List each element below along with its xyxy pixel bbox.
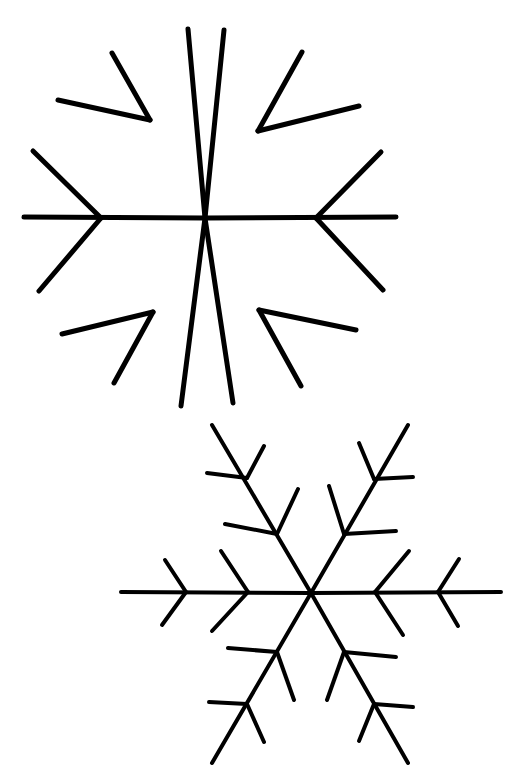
b-arm-se-b1-b	[327, 652, 344, 700]
b-arm-sw-b2-a	[209, 702, 247, 704]
snowflake-bottom-strokes	[121, 425, 501, 763]
b-arm-w-b2-up	[165, 560, 186, 592]
b-arm-ne-b1-a	[344, 531, 396, 534]
drawing-canvas	[0, 0, 528, 780]
b-arm-sw-b1-b	[277, 652, 294, 700]
b-arm-e-b1-up	[375, 551, 409, 592]
b-arm-se-b1-a	[344, 652, 396, 657]
b-arm-nw-b2-b	[247, 446, 264, 478]
b-arm-se-b2-b	[359, 704, 374, 741]
b-arm-w-b1-dn	[212, 592, 248, 631]
b-arm-e-b1-dn	[375, 592, 403, 635]
b-arm-ne-b2-b	[359, 443, 374, 479]
b-arm-ne-b1-b	[329, 486, 344, 534]
snowflake-bottom	[0, 0, 528, 780]
b-arm-w-b2-dn	[162, 592, 186, 625]
b-arm-sw-b1-a	[228, 648, 277, 652]
b-arm-se-b2-a	[374, 704, 413, 707]
b-arm-e-main	[311, 592, 501, 593]
b-arm-w-main	[121, 592, 311, 593]
b-arm-e-b2-up	[438, 559, 459, 592]
b-arm-ne-b2-a	[374, 477, 413, 479]
b-arm-e-b2-dn	[438, 592, 458, 626]
b-arm-nw-b1-b	[277, 489, 298, 534]
b-arm-w-b1-up	[221, 551, 248, 592]
b-arm-sw-b2-b	[247, 704, 264, 742]
